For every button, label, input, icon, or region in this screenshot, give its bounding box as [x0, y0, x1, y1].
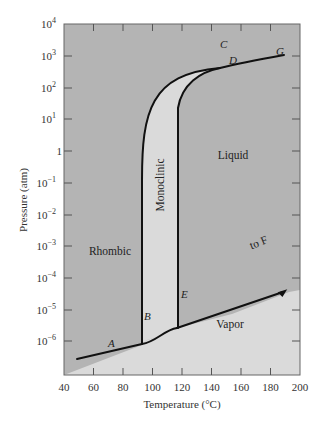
- region-label-liquid: Liquid: [218, 149, 249, 162]
- svg-text:10−3: 10−3: [36, 238, 56, 252]
- svg-text:60: 60: [88, 381, 100, 393]
- svg-text:120: 120: [174, 381, 191, 393]
- point-label-g: G: [276, 45, 284, 57]
- svg-text:10−4: 10−4: [36, 270, 56, 284]
- svg-text:140: 140: [203, 381, 220, 393]
- phase-diagram-chart: 104 103 102 101 1 10−1 10−2 10−3 10−4 10…: [0, 0, 322, 425]
- svg-text:1: 1: [57, 145, 63, 157]
- svg-text:101: 101: [41, 111, 56, 125]
- svg-text:104: 104: [41, 16, 56, 30]
- svg-text:200: 200: [292, 381, 309, 393]
- svg-text:10−1: 10−1: [36, 175, 56, 189]
- point-label-a: A: [107, 337, 115, 349]
- y-axis-title: Pressure (atm): [17, 168, 30, 232]
- svg-text:102: 102: [41, 80, 56, 94]
- region-label-monoclinic: Monoclinic: [154, 158, 166, 211]
- y-tick-labels: 104 103 102 101 1 10−1 10−2 10−3 10−4 10…: [36, 16, 62, 347]
- x-axis-title: Temperature (°C): [143, 398, 221, 411]
- x-tick-labels: 40 60 80 100 120 140 160 180 200: [59, 381, 309, 393]
- svg-text:10−5: 10−5: [36, 302, 56, 316]
- svg-text:10−2: 10−2: [36, 207, 56, 221]
- region-label-vapor: Vapor: [216, 318, 244, 331]
- svg-text:160: 160: [233, 381, 250, 393]
- point-label-c: C: [220, 38, 228, 50]
- point-label-e: E: [180, 288, 188, 300]
- svg-text:40: 40: [59, 381, 71, 393]
- svg-text:103: 103: [41, 48, 56, 62]
- region-label-rhombic: Rhombic: [89, 245, 131, 257]
- point-label-b: B: [144, 310, 151, 322]
- svg-text:10−6: 10−6: [36, 333, 56, 347]
- svg-text:100: 100: [144, 381, 161, 393]
- svg-text:80: 80: [118, 381, 130, 393]
- svg-text:180: 180: [262, 381, 279, 393]
- point-label-d: D: [228, 54, 237, 66]
